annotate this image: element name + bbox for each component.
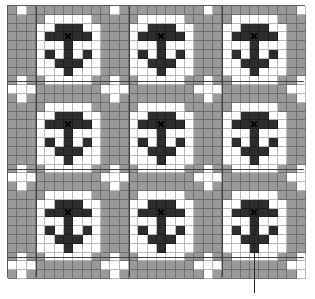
frame-cell	[157, 191, 166, 200]
frame-cell	[83, 244, 92, 253]
background-cell	[194, 15, 203, 24]
frame-cell	[241, 41, 250, 50]
background-cell	[45, 261, 54, 270]
background-cell	[27, 138, 36, 147]
frame-cell	[83, 112, 92, 121]
frame-cell	[17, 173, 26, 182]
frame-cell	[232, 156, 241, 165]
background-cell	[269, 6, 278, 15]
frame-cell	[148, 226, 157, 235]
motif-cell	[166, 235, 175, 244]
frame-cell	[222, 200, 231, 209]
background-cell	[27, 156, 36, 165]
background-cell	[157, 6, 166, 15]
motif-cell	[232, 120, 241, 129]
background-cell	[194, 68, 203, 77]
motif-cell	[73, 24, 82, 33]
background-cell	[204, 32, 213, 41]
motif-cell	[157, 209, 166, 218]
background-cell	[148, 94, 157, 103]
frame-cell	[222, 209, 231, 218]
motif-cell	[64, 50, 73, 59]
frame-cell	[297, 270, 306, 279]
background-cell	[64, 261, 73, 270]
motif-cell	[250, 24, 259, 33]
frame-cell	[64, 191, 73, 200]
background-cell	[36, 173, 45, 182]
frame-cell	[17, 182, 26, 191]
frame-cell	[278, 226, 287, 235]
frame-cell	[185, 217, 194, 226]
background-cell	[297, 112, 306, 121]
background-cell	[110, 120, 119, 129]
background-cell	[166, 182, 175, 191]
background-cell	[120, 270, 129, 279]
motif-cell	[45, 50, 54, 59]
frame-cell	[278, 41, 287, 50]
frame-cell	[27, 173, 36, 182]
frame-cell	[73, 217, 82, 226]
frame-cell	[297, 85, 306, 94]
background-cell	[185, 191, 194, 200]
frame-cell	[138, 217, 147, 226]
background-cell	[138, 173, 147, 182]
frame-cell	[250, 15, 259, 24]
frame-cell	[185, 68, 194, 77]
frame-cell	[92, 24, 101, 33]
background-cell	[83, 182, 92, 191]
frame-cell	[36, 244, 45, 253]
background-cell	[213, 6, 222, 15]
background-cell	[241, 182, 250, 191]
background-cell	[92, 15, 101, 24]
frame-cell	[222, 244, 231, 253]
motif-cell	[45, 138, 54, 147]
frame-cell	[241, 50, 250, 59]
motif-cell	[250, 129, 259, 138]
frame-cell	[138, 68, 147, 77]
frame-cell	[157, 103, 166, 112]
background-cell	[287, 209, 296, 218]
motif-cell	[64, 32, 73, 41]
motif-cell	[64, 217, 73, 226]
frame-cell	[278, 147, 287, 156]
motif-cell	[148, 112, 157, 121]
frame-cell	[185, 41, 194, 50]
background-cell	[120, 244, 129, 253]
frame-cell	[176, 235, 185, 244]
frame-cell	[241, 191, 250, 200]
motif-cell	[64, 59, 73, 68]
frame-cell	[101, 173, 110, 182]
frame-cell	[166, 103, 175, 112]
motif-cell	[250, 32, 259, 41]
motif-cell	[250, 59, 259, 68]
background-cell	[110, 24, 119, 33]
background-cell	[287, 32, 296, 41]
background-cell	[101, 191, 110, 200]
motif-cell	[148, 59, 157, 68]
background-cell	[8, 41, 17, 50]
frame-cell	[27, 261, 36, 270]
motif-cell	[55, 59, 64, 68]
frame-cell	[101, 85, 110, 94]
frame-cell	[176, 41, 185, 50]
motif-cell	[148, 235, 157, 244]
background-cell	[194, 6, 203, 15]
frame-cell	[269, 156, 278, 165]
motif-cell	[157, 129, 166, 138]
frame-cell	[185, 59, 194, 68]
motif-cell	[138, 138, 147, 147]
frame-cell	[250, 103, 259, 112]
frame-cell	[83, 15, 92, 24]
motif-cell	[138, 209, 147, 218]
frame-cell	[17, 94, 26, 103]
background-cell	[287, 112, 296, 121]
frame-cell	[45, 217, 54, 226]
background-cell	[27, 41, 36, 50]
background-cell	[8, 270, 17, 279]
background-cell	[120, 217, 129, 226]
background-cell	[83, 173, 92, 182]
frame-cell	[92, 112, 101, 121]
frame-cell	[83, 68, 92, 77]
background-cell	[27, 191, 36, 200]
background-cell	[73, 261, 82, 270]
